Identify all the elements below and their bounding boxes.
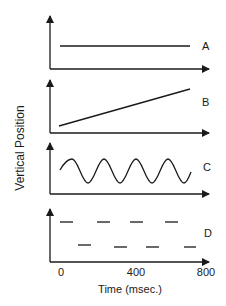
panel-d: D <box>50 209 212 262</box>
x-tick-0: 0 <box>58 266 64 278</box>
panel-a: A <box>50 16 210 69</box>
panel-c-label: C <box>203 161 211 173</box>
panel-d-series <box>60 222 196 247</box>
panel-d-label: D <box>204 227 212 239</box>
panel-c-series <box>60 159 191 183</box>
panel-a-label: A <box>202 40 210 52</box>
y-axis-label: Vertical Position <box>13 105 27 190</box>
panel-b-label: B <box>202 96 209 108</box>
figure: Vertical Position A B C D <box>0 0 226 306</box>
x-tick-400: 400 <box>127 266 145 278</box>
x-axis-label: Time (msec.) <box>98 283 162 295</box>
panel-c: C <box>50 143 211 194</box>
x-tick-800: 800 <box>197 266 215 278</box>
panel-b-series <box>59 89 190 126</box>
panel-b: B <box>50 80 209 133</box>
